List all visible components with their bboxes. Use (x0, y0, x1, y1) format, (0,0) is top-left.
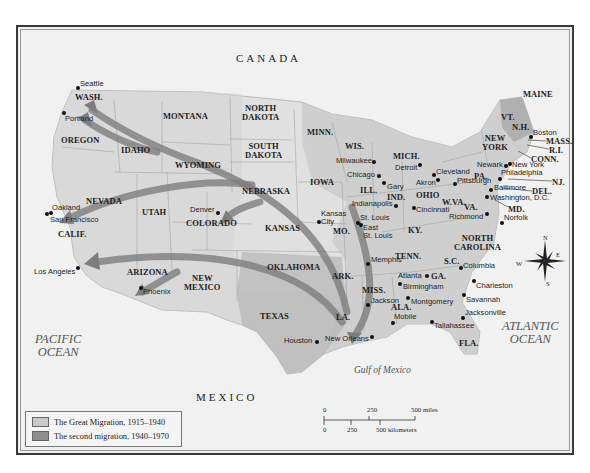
compass-w: W (516, 260, 522, 267)
legend-swatch-dark (32, 431, 49, 441)
scale-miles-0: 0 (323, 407, 326, 414)
scale-miles-500: 500 miles (411, 407, 438, 414)
compass-n: N (543, 234, 548, 241)
scale-km-500: 500 kilometers (376, 427, 417, 434)
compass-s: S (546, 280, 550, 287)
legend-item-second-migration: The second migration, 1940–1970 (32, 431, 169, 441)
scale-bar: 0 250 500 miles 0 250 500 kilometers (323, 407, 453, 437)
scale-km-0: 0 (323, 427, 326, 434)
leader-lines (0, 0, 590, 473)
scale-km-250: 250 (347, 427, 357, 434)
legend-swatch-light (32, 417, 49, 427)
scale-miles-250: 250 (367, 407, 377, 414)
legend-label: The second migration, 1940–1970 (54, 432, 169, 441)
compass-rose-icon (520, 236, 570, 286)
legend-item-great-migration: The Great Migration, 1915–1940 (32, 417, 165, 427)
compass-e: E (556, 251, 560, 258)
map-legend: The Great Migration, 1915–1940 The secon… (25, 411, 182, 447)
legend-label: The Great Migration, 1915–1940 (54, 418, 165, 427)
